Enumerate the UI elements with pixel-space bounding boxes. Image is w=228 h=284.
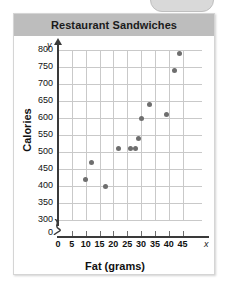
y-tick-label: 700 <box>13 78 53 88</box>
x-axis-line <box>57 236 209 238</box>
y-tick-label: 400 <box>13 180 53 190</box>
x-tick-mark <box>86 231 87 236</box>
gridline-horizontal <box>58 118 202 119</box>
x-tick-mark <box>183 231 184 236</box>
x-tick-mark <box>155 231 156 236</box>
x-tick-mark <box>72 231 73 236</box>
gridline-horizontal <box>58 203 202 204</box>
y-tick-label: 500 <box>13 146 53 156</box>
gridline-horizontal <box>58 67 202 68</box>
gridline-horizontal <box>58 186 202 187</box>
data-point <box>147 102 152 107</box>
chart-title-bar: Restaurant Sandwiches <box>14 14 214 36</box>
y-axis-line <box>57 44 59 226</box>
gridline-horizontal <box>58 84 202 85</box>
x-tick-mark <box>100 231 101 236</box>
data-point <box>164 112 169 117</box>
chart-page: Restaurant Sandwiches Calories Fat (gram… <box>0 0 228 284</box>
grid-lines <box>58 50 202 220</box>
data-point <box>172 68 177 73</box>
decorative-pill-artifact <box>150 0 214 12</box>
chart-card: Restaurant Sandwiches Calories Fat (gram… <box>13 13 215 275</box>
gridline-horizontal <box>58 101 202 102</box>
data-point <box>128 146 133 151</box>
x-tick-label: 45 <box>173 239 193 249</box>
gridline-horizontal <box>58 220 202 221</box>
data-point <box>89 160 94 165</box>
data-point <box>103 184 108 189</box>
x-variable-marker: x <box>204 239 209 249</box>
data-point <box>136 136 141 141</box>
y-axis-arrow-icon <box>54 38 62 45</box>
y-tick-label: 800 <box>13 44 53 54</box>
y-tick-label: 300 <box>13 214 53 224</box>
data-point <box>83 177 88 182</box>
x-tick-mark <box>113 231 114 236</box>
gridline-horizontal <box>58 135 202 136</box>
x-tick-mark <box>169 231 170 236</box>
data-point <box>139 116 144 121</box>
plot-area: Calories Fat (grams) y x 0 3003504004505… <box>14 36 216 276</box>
x-axis-label: Fat (grams) <box>14 260 216 272</box>
x-tick-mark <box>141 231 142 236</box>
y-tick-label: 650 <box>13 95 53 105</box>
x-tick-mark <box>127 231 128 236</box>
gridline-horizontal <box>58 169 202 170</box>
y-tick-label: 750 <box>13 61 53 71</box>
y-tick-label: 550 <box>13 129 53 139</box>
page-title: Restaurant Sandwiches <box>51 19 177 31</box>
y-axis-zero-label: 0 <box>13 227 53 237</box>
gridline-horizontal <box>58 152 202 153</box>
axis-break-icon <box>52 219 66 235</box>
y-tick-label: 600 <box>13 112 53 122</box>
y-tick-label: 350 <box>13 197 53 207</box>
y-tick-label: 450 <box>13 163 53 173</box>
